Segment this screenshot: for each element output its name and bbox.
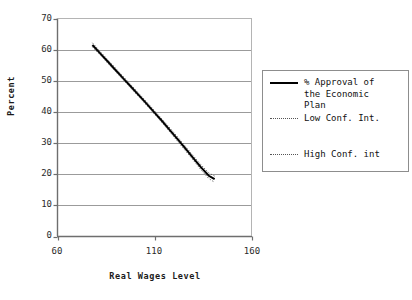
legend-dotted-line-icon: [270, 149, 300, 160]
axis-ticks: [54, 20, 253, 241]
legend-item-label: High Conf. int: [304, 149, 380, 161]
gridlines: [58, 51, 252, 206]
legend-item-high-conf: High Conf. int: [263, 149, 410, 161]
chart-legend: % Approval of the Economic Plan Low Conf…: [262, 70, 409, 172]
legend-item-low-conf: Low Conf. Int.: [263, 113, 410, 125]
series-line: [92, 43, 214, 176]
legend-item-approval: % Approval of the Economic Plan: [263, 77, 410, 112]
legend-solid-line-icon: [270, 77, 300, 88]
legend-dotted-line-icon: [270, 113, 300, 124]
legend-item-label: Low Conf. Int.: [304, 113, 380, 125]
chart-figure: Percent Real Wages Level 70 60 50 40 30 …: [0, 0, 412, 300]
legend-item-label: % Approval of the Economic Plan: [304, 77, 374, 112]
